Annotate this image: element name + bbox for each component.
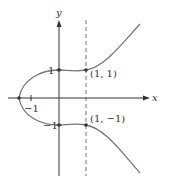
- point-label-1-1: (1, 1): [90, 68, 117, 79]
- point-0-1: [57, 68, 61, 72]
- point-1-1: [84, 68, 88, 72]
- y-axis-arrow-icon: [57, 20, 62, 27]
- y-axis-label: y: [55, 7, 62, 18]
- point-1-minus1: [84, 123, 88, 127]
- x-tick-label-minus1: −1: [24, 103, 39, 114]
- curve-diagram: y x −1 1 −1 (1, 1) (1, −1): [0, 0, 169, 189]
- x-axis-label: x: [152, 92, 158, 103]
- y-tick-label-1: 1: [48, 65, 54, 76]
- x-axis-arrow-icon: [143, 96, 150, 101]
- y-tick-label-minus1: −1: [43, 120, 58, 131]
- point-x-intercept: [17, 96, 21, 100]
- point-label-1-minus1: (1, −1): [90, 113, 125, 124]
